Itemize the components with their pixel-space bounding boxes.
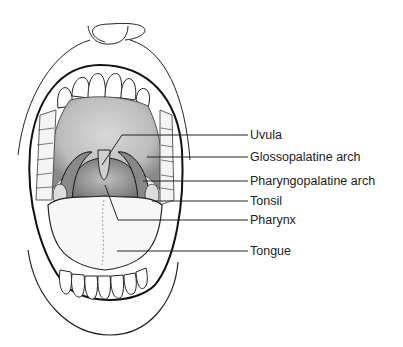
label-pharyngopalatine-arch: Pharyngopalatine arch xyxy=(250,174,375,188)
label-uvula: Uvula xyxy=(250,128,282,142)
label-pharynx: Pharynx xyxy=(250,213,296,227)
label-tongue: Tongue xyxy=(250,244,291,258)
label-glossopalatine-arch: Glossopalatine arch xyxy=(250,150,360,164)
label-tonsil: Tonsil xyxy=(250,194,282,208)
